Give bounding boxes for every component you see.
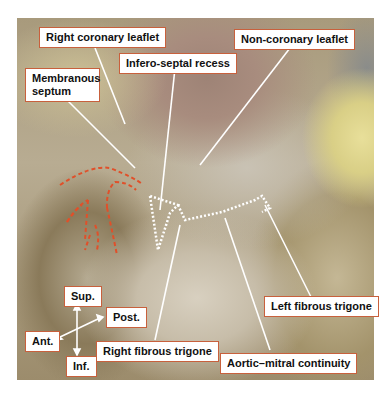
label-infero-septal-recess: Infero-septal recess [119, 53, 237, 74]
label-non-coronary-leaflet: Non-coronary leaflet [234, 29, 355, 50]
orientation-ant: Ant. [25, 331, 60, 352]
label-right-coronary-leaflet: Right coronary leaflet [39, 27, 166, 48]
orientation-inf: Inf. [66, 356, 97, 377]
red-dash-lines [60, 168, 142, 255]
orientation-post: Post. [106, 307, 147, 328]
orientation-sup: Sup. [64, 286, 102, 307]
label-right-fibrous-trigone: Right fibrous trigone [96, 341, 219, 362]
dotted-outline [150, 196, 270, 250]
label-left-fibrous-trigone: Left fibrous trigone [264, 296, 379, 317]
label-membranous-septum: Membranous septum [25, 68, 100, 102]
label-aortic-mitral-continuity: Aortic–mitral continuity [220, 353, 357, 374]
